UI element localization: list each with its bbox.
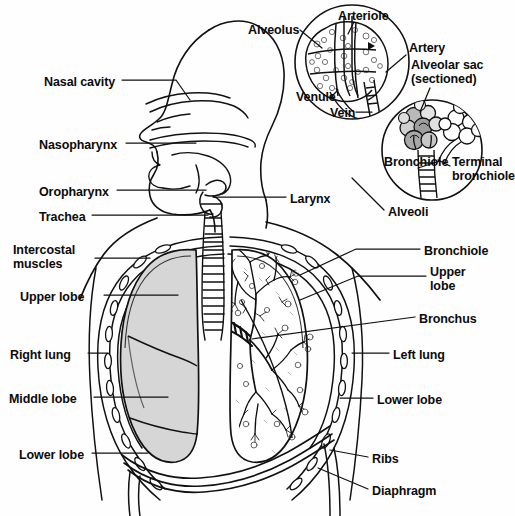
inset-bronchiole xyxy=(382,100,485,201)
label-larynx: Larynx xyxy=(290,192,330,206)
leader-diaphragm xyxy=(318,468,368,489)
leader-alveoli xyxy=(352,178,384,210)
label-venule: Venule xyxy=(296,90,336,104)
label-artery: Artery xyxy=(409,41,445,55)
label-alveoli: Alveoli xyxy=(388,205,428,219)
label-left-lung: Left lung xyxy=(393,348,445,362)
respiratory-system-figure: Nasal cavityNasopharynxOropharynxTrachea… xyxy=(0,0,515,516)
label-oropharynx: Oropharynx xyxy=(39,185,109,199)
trachea xyxy=(202,212,224,340)
label-bronchus: Bronchus xyxy=(419,312,477,326)
label-vein: Vein xyxy=(330,106,355,120)
label-upper-lobe-left: Upper lobe xyxy=(430,265,466,293)
oral-cavity-structure xyxy=(149,133,255,194)
label-middle-lobe: Middle lobe xyxy=(9,392,77,406)
label-alveolar-sac: Alveolar sac (sectioned) xyxy=(411,58,483,86)
label-bronchiole-lung: Bronchiole xyxy=(424,244,488,258)
label-alveolus: Alveolus xyxy=(248,23,299,37)
label-lower-lobe-right: Lower lobe xyxy=(19,448,84,462)
leader-bronchiole-lung xyxy=(300,249,420,275)
leader-nasal-cavity xyxy=(122,80,190,100)
label-terminal-bronchiole: Terminal bronchiole xyxy=(452,155,515,183)
nasal-cavity-structure xyxy=(146,93,248,130)
larynx-structure xyxy=(200,180,226,217)
label-bronchiole-inset: Bronchiole xyxy=(384,155,448,169)
label-nasal-cavity: Nasal cavity xyxy=(44,75,115,89)
label-lower-lobe-left: Lower lobe xyxy=(377,393,442,407)
label-diaphragm: Diaphragm xyxy=(372,484,436,498)
label-right-lung: Right lung xyxy=(10,348,71,362)
label-intercostal-muscles: Intercostal muscles xyxy=(13,243,75,271)
label-trachea: Trachea xyxy=(39,210,86,224)
left-lung xyxy=(222,237,313,462)
head-neck-outline xyxy=(140,21,284,232)
label-nasopharynx: Nasopharynx xyxy=(39,138,117,152)
label-ribs: Ribs xyxy=(372,452,399,466)
label-arteriole: Arteriole xyxy=(338,9,389,23)
label-upper-lobe-right: Upper lobe xyxy=(20,290,84,304)
